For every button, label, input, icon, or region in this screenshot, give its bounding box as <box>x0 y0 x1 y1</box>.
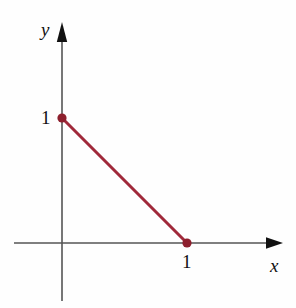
graph-figure: y x 1 1 <box>0 0 296 308</box>
arrow-up-icon <box>57 22 67 42</box>
arrow-right-icon <box>266 237 283 248</box>
data-segment <box>62 118 187 243</box>
data-point-y-intercept <box>57 113 66 122</box>
data-point-x-intercept <box>182 238 191 247</box>
x-axis-tick-label-1: 1 <box>182 252 192 271</box>
y-axis-tick-label-1: 1 <box>41 108 51 127</box>
y-axis-label: y <box>41 20 49 39</box>
x-axis-label: x <box>270 256 278 275</box>
coordinate-plot <box>0 0 296 308</box>
